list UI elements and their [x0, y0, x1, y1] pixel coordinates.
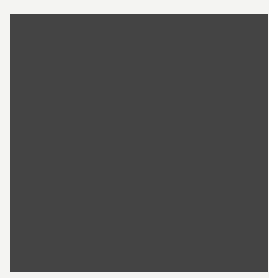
crossword-grid — [10, 14, 268, 272]
